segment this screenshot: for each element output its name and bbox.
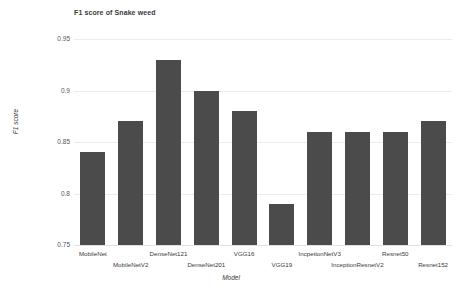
bar <box>307 132 332 245</box>
y-tick-label: 0.85 <box>30 138 70 145</box>
x-tick-label: MobileNetV2 <box>113 261 148 268</box>
bar <box>232 111 257 245</box>
y-tick-label: 0.95 <box>30 35 70 42</box>
bar <box>156 60 181 245</box>
bar <box>194 91 219 246</box>
y-axis-ticks: 0.750.80.850.90.95 <box>26 39 70 245</box>
bar <box>383 132 408 245</box>
chart-title: F1 score of Snake weed <box>74 9 156 16</box>
bars-layer <box>74 39 452 245</box>
y-tick-label: 0.8 <box>30 190 70 197</box>
x-tick-label: DenseNet201 <box>187 261 225 268</box>
y-tick-label: 0.9 <box>30 87 70 94</box>
x-tick-label: VGG16 <box>234 250 255 257</box>
x-tick-label: Resnet50 <box>382 250 409 257</box>
x-tick-label: VGG19 <box>272 261 293 268</box>
x-axis-title: Model <box>0 274 462 281</box>
x-tick-label: IncpetionNetV3 <box>299 250 341 257</box>
x-tick-label: InceptionResnetV2 <box>331 261 383 268</box>
bar <box>269 204 294 245</box>
y-tick-label: 0.75 <box>30 241 70 248</box>
x-tick-label: DenseNet121 <box>150 250 188 257</box>
x-axis-ticks: MobileNetMobileNetV2DenseNet121DenseNet2… <box>74 245 452 277</box>
x-tick-label: Resnet152 <box>418 261 448 268</box>
bar <box>118 121 143 245</box>
y-axis-title: F1 score <box>12 92 19 152</box>
bar-chart: F1 score of Snake weed F1 score 0.750.80… <box>0 0 462 296</box>
bar <box>345 132 370 245</box>
bar <box>80 152 105 245</box>
bar <box>421 121 446 245</box>
x-tick-label: MobileNet <box>79 250 107 257</box>
